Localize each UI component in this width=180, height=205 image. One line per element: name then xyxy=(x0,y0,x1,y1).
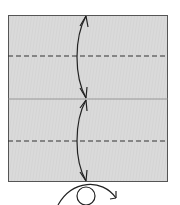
turn-over-icon xyxy=(58,184,116,205)
origami-diagram xyxy=(0,0,180,205)
paper-square xyxy=(9,16,168,182)
